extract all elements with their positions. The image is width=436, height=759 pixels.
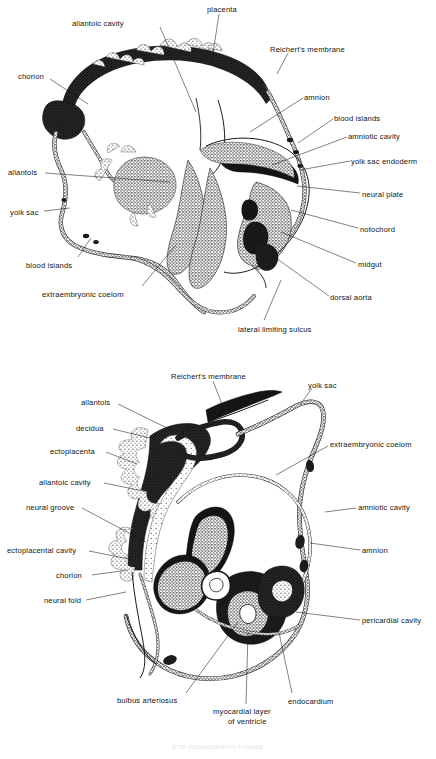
label-upper-yolk_sac_endoderm: yolk sac endoderm bbox=[351, 157, 417, 166]
chorion-knob bbox=[43, 101, 85, 139]
label-upper-allantoic_cavity: allantoic cavity bbox=[72, 19, 124, 28]
label-lower-pericardial_cavity: pericardial cavity bbox=[362, 616, 421, 625]
label-upper-midgut: midgut bbox=[358, 260, 382, 269]
label-upper-blood_islands_l: blood islands bbox=[26, 261, 72, 270]
endocardium bbox=[240, 604, 256, 623]
amnion-sheet-2 bbox=[196, 98, 201, 150]
lower-figure-drawing bbox=[0, 352, 436, 732]
label-upper-reicherts_membrane: Reichert's membrane bbox=[270, 45, 345, 54]
label-lower-decidua: decidua bbox=[76, 424, 104, 433]
bulbus-arteriosus-lumen bbox=[210, 578, 224, 591]
label-lower-bulbus_arteriosus: bulbus arteriosus bbox=[117, 696, 177, 705]
placenta-band-lower bbox=[63, 51, 272, 112]
label-lower-amniotic_cavity: amniotic cavity bbox=[358, 503, 410, 512]
ectoplacental-cavity-strand bbox=[132, 572, 145, 678]
lower-embryo-section bbox=[0, 352, 436, 732]
allantoic-mass bbox=[114, 157, 176, 214]
label-upper-neural_plate: neural plate bbox=[362, 190, 404, 199]
label-lower-allantoic_cavity: allantoic cavity bbox=[39, 478, 91, 487]
label-upper-notochord: notochord bbox=[360, 225, 395, 234]
label-lower-neural_groove: neural groove bbox=[26, 503, 74, 512]
label-lower-endocardium: endocardium bbox=[288, 697, 334, 706]
illustration-page: allantoic cavityplacentaReichert's membr… bbox=[0, 0, 436, 759]
label-upper-placenta: placenta bbox=[207, 5, 237, 14]
label-lower-neural_fold: neural fold bbox=[44, 596, 81, 605]
figure-caption: ETR (MONOGRAPH) FIGURE bbox=[0, 744, 436, 750]
label-lower-myocardial_layer: myocardial layer bbox=[213, 707, 271, 716]
label-upper-extraembryonic_coelom: extraembryonic coelom bbox=[42, 290, 124, 299]
label-upper-blood_islands_r: blood islands bbox=[334, 114, 380, 123]
label-lower-ectoplacental_cavity: ectoplacental cavity bbox=[7, 546, 76, 555]
label-lower-reicherts_membrane: Reichert's membrane bbox=[171, 372, 246, 381]
amnion-sheet bbox=[208, 100, 225, 178]
notochord bbox=[242, 199, 259, 220]
label-upper-dorsal_aorta: dorsal aorta bbox=[330, 293, 372, 302]
label-upper-amnion: amnion bbox=[304, 93, 330, 102]
label-upper-amniotic_cavity: amniotic cavity bbox=[348, 132, 400, 141]
label-upper-chorion: chorion bbox=[18, 72, 44, 81]
label-lower-yolk_sac: yolk sac bbox=[308, 381, 337, 390]
label-upper-lateral_limiting_sulcus: lateral limiting sulcus bbox=[238, 325, 312, 334]
label-lower-allantois: allantois bbox=[81, 398, 110, 407]
label-lower-ectoplacenta: ectoplacenta bbox=[50, 447, 95, 456]
label-lower-myocardial_layer_2: of ventricle bbox=[228, 717, 267, 726]
label-lower-chorion: chorion bbox=[56, 571, 82, 580]
label-lower-amnion: amnion bbox=[362, 546, 388, 555]
label-upper-allantois: allantois bbox=[8, 168, 37, 177]
label-upper-yolk_sac: yolk sac bbox=[10, 208, 39, 217]
label-lower-extraembryonic_coelom: extraembryonic coelom bbox=[330, 440, 412, 449]
